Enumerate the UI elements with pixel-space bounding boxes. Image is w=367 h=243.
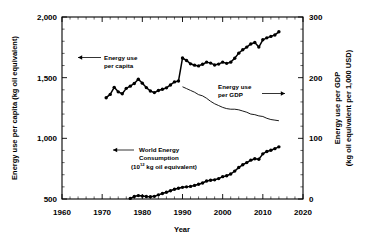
data-point bbox=[261, 152, 264, 155]
annotation-per-capita-line2: per capita bbox=[104, 62, 134, 69]
data-point bbox=[181, 186, 184, 189]
data-point bbox=[273, 147, 276, 150]
x-tick-label: 2010 bbox=[254, 208, 272, 217]
data-point bbox=[137, 194, 140, 197]
data-point bbox=[193, 184, 196, 187]
data-point bbox=[277, 145, 280, 148]
data-point bbox=[109, 93, 112, 96]
data-point bbox=[141, 81, 144, 84]
y2-tick-label: 0 bbox=[309, 195, 314, 204]
data-point bbox=[197, 64, 200, 67]
data-point bbox=[161, 192, 164, 195]
data-point bbox=[133, 82, 136, 85]
data-point bbox=[145, 86, 148, 89]
data-point bbox=[104, 96, 107, 99]
data-point bbox=[233, 57, 236, 60]
data-point bbox=[221, 60, 224, 63]
data-point bbox=[249, 158, 252, 161]
data-point bbox=[237, 51, 240, 54]
annotation-consumption-line3-suffix: kg oil equivalent) bbox=[145, 163, 197, 170]
data-point bbox=[181, 56, 184, 59]
data-point bbox=[197, 183, 200, 186]
annotation-consumption-line2: Consumption bbox=[139, 154, 179, 161]
y2-tick-label: 100 bbox=[309, 134, 323, 143]
data-point bbox=[161, 88, 164, 91]
data-point bbox=[217, 177, 220, 180]
data-point bbox=[157, 89, 160, 92]
data-point bbox=[249, 42, 252, 45]
x-tick-label: 1980 bbox=[133, 208, 151, 217]
data-point bbox=[265, 150, 268, 153]
data-point bbox=[209, 178, 212, 181]
data-point bbox=[213, 178, 216, 181]
data-point bbox=[269, 149, 272, 152]
data-point bbox=[229, 172, 232, 175]
y2-axis-title-line2: (kg oil equivalent per 1,000 USD) bbox=[344, 49, 353, 166]
annotation-per-gdp-line2: per GDP bbox=[218, 91, 243, 98]
data-point bbox=[149, 89, 152, 92]
annotation-consumption-line1: World Energy bbox=[139, 146, 180, 153]
data-point bbox=[253, 41, 256, 44]
data-point bbox=[221, 175, 224, 178]
data-point bbox=[169, 83, 172, 86]
data-point bbox=[241, 163, 244, 166]
data-point bbox=[201, 181, 204, 184]
y-tick-label: 500 bbox=[44, 195, 58, 204]
data-point bbox=[165, 191, 168, 194]
data-point bbox=[129, 197, 132, 200]
x-axis-title: Year bbox=[174, 225, 190, 234]
data-point bbox=[189, 185, 192, 188]
x-tick-label: 2000 bbox=[214, 208, 232, 217]
data-point bbox=[245, 45, 248, 48]
data-point bbox=[113, 86, 116, 89]
data-point bbox=[185, 59, 188, 62]
data-point bbox=[141, 194, 144, 197]
x-tick-label: 1970 bbox=[93, 208, 111, 217]
data-point bbox=[145, 195, 148, 198]
data-point bbox=[233, 169, 236, 172]
data-point bbox=[257, 158, 260, 161]
data-point bbox=[173, 80, 176, 83]
y-tick-label: 1,000 bbox=[37, 134, 58, 143]
data-point bbox=[173, 188, 176, 191]
y-axis-title: Energy use per capita (kg oil equivalent… bbox=[10, 36, 19, 180]
data-point bbox=[245, 161, 248, 164]
data-point bbox=[265, 36, 268, 39]
data-point bbox=[153, 195, 156, 198]
chart-figure: 19601970198019902000201020205001,0001,50… bbox=[0, 0, 367, 243]
chart-background bbox=[0, 0, 367, 243]
data-point bbox=[137, 78, 140, 81]
data-point bbox=[153, 91, 156, 94]
data-point bbox=[269, 35, 272, 38]
data-point bbox=[213, 63, 216, 66]
data-point bbox=[125, 87, 128, 90]
data-point bbox=[165, 86, 168, 89]
data-point bbox=[149, 195, 152, 198]
data-point bbox=[237, 166, 240, 169]
data-point bbox=[129, 84, 132, 87]
y-tick-label: 1,500 bbox=[37, 74, 58, 83]
data-point bbox=[169, 189, 172, 192]
data-point bbox=[177, 187, 180, 190]
data-point bbox=[201, 63, 204, 66]
data-point bbox=[225, 174, 228, 177]
annotation-per-gdp-line1: Energy use bbox=[218, 83, 252, 90]
data-point bbox=[225, 62, 228, 65]
annotation-per-capita-line1: Energy use bbox=[104, 54, 138, 61]
data-point bbox=[273, 33, 276, 36]
data-point bbox=[121, 92, 124, 95]
x-tick-label: 2020 bbox=[294, 208, 312, 217]
data-point bbox=[257, 45, 260, 48]
data-point bbox=[157, 193, 160, 196]
data-point bbox=[193, 63, 196, 66]
data-point bbox=[241, 48, 244, 51]
y-tick-label: 2,000 bbox=[37, 13, 58, 22]
data-point bbox=[277, 30, 280, 33]
data-point bbox=[209, 61, 212, 64]
x-tick-label: 1960 bbox=[53, 208, 71, 217]
data-point bbox=[185, 185, 188, 188]
x-tick-label: 1990 bbox=[174, 208, 192, 217]
data-point bbox=[133, 195, 136, 198]
data-point bbox=[261, 38, 264, 41]
energy-chart: 19601970198019902000201020205001,0001,50… bbox=[0, 0, 367, 243]
